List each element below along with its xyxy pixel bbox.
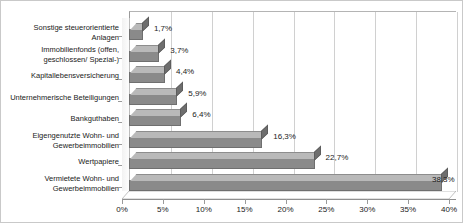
bar-row: 1,7% <box>122 22 449 42</box>
bar-row: 6,4% <box>122 108 449 128</box>
value-axis: 0%5%10%15%20%25%30%35%40% <box>122 191 462 221</box>
category-label-line: Gewerbeimmobilien <box>6 141 119 151</box>
value-tick <box>204 199 205 204</box>
category-label: Sonstige steuerorientierteAnlagen <box>6 23 119 43</box>
value-tick <box>408 199 409 204</box>
category-label-line: geschlossen/ Spezial-) <box>6 55 119 65</box>
value-tick-label: 25% <box>318 205 334 214</box>
category-label: Eigengenutzte Wohn- undGewerbeimmobilien <box>6 131 119 151</box>
category-label-line: Kapitallebensversicherung <box>6 71 119 81</box>
bar[interactable] <box>129 94 177 105</box>
gridline <box>457 12 458 192</box>
value-tick-label: 5% <box>157 205 169 214</box>
axis-line <box>122 199 456 200</box>
category-label: Unternehmerische Beteiligungen <box>6 93 119 103</box>
bar-row: 3,7% <box>122 44 449 64</box>
bar[interactable] <box>129 158 315 169</box>
category-label: Wertpapiere <box>6 157 119 167</box>
value-tick <box>326 199 327 204</box>
bar-value-label: 16,3% <box>273 132 296 141</box>
category-label-line: Vermietete Wohn- und <box>6 174 119 184</box>
bar-value-label: 22,7% <box>326 153 349 162</box>
category-axis: Sonstige steuerorientierteAnlagenImmobil… <box>1 18 119 198</box>
category-label: Immobilienfonds (offen,geschlossen/ Spez… <box>6 45 119 65</box>
category-label-line: Eigengenutzte Wohn- und <box>6 131 119 141</box>
value-tick <box>245 199 246 204</box>
bar-top-face <box>130 88 183 95</box>
bar-row: 16,3% <box>122 130 449 150</box>
value-tick-label: 30% <box>359 205 375 214</box>
bar[interactable] <box>129 180 442 191</box>
bar[interactable] <box>129 72 165 83</box>
bar-top-face <box>130 109 187 116</box>
bar[interactable] <box>129 137 262 148</box>
category-label-line: Unternehmerische Beteiligungen <box>6 93 119 103</box>
bar-value-label: 5,9% <box>188 89 206 98</box>
bar-value-label: 38,3% <box>432 175 455 184</box>
value-tick <box>122 199 123 204</box>
value-tick-label: 10% <box>196 205 212 214</box>
bar-top-face <box>130 174 448 181</box>
value-tick <box>449 199 450 204</box>
bar-value-label: 4,4% <box>176 67 194 76</box>
value-tick <box>163 199 164 204</box>
bar-end-cap <box>142 16 149 32</box>
category-label: Kapitallebensversicherung <box>6 71 119 81</box>
value-tick-label: 35% <box>400 205 416 214</box>
bar-value-label: 3,7% <box>170 46 188 55</box>
value-tick <box>367 199 368 204</box>
category-label-line: Bankguthaben <box>6 114 119 124</box>
bar-row: 4,4% <box>122 65 449 85</box>
bar-value-label: 6,4% <box>192 110 210 119</box>
bar-row: 22,7% <box>122 151 449 171</box>
bar-top-face <box>130 131 268 138</box>
value-tick-label: 15% <box>237 205 253 214</box>
value-tick-label: 40% <box>441 205 457 214</box>
category-label-line: Wertpapiere <box>6 157 119 167</box>
plot-area: 1,7%3,7%4,4%5,9%6,4%16,3%22,7%38,3% <box>122 18 456 198</box>
value-tick <box>286 199 287 204</box>
bar-value-label: 1,7% <box>154 24 172 33</box>
category-label-line: Anlagen <box>6 33 119 43</box>
bar-top-face <box>130 152 320 159</box>
value-tick-label: 0% <box>116 205 128 214</box>
category-label: Bankguthaben <box>6 114 119 124</box>
value-tick-label: 20% <box>277 205 293 214</box>
bar-row: 5,9% <box>122 87 449 107</box>
chart-frame: Sonstige steuerorientierteAnlagenImmobil… <box>0 0 463 223</box>
category-label-line: Immobilienfonds (offen, <box>6 45 119 55</box>
bar[interactable] <box>129 29 143 40</box>
bar[interactable] <box>129 115 181 126</box>
category-label: Vermietete Wohn- undGewerbeimmobilien <box>6 174 119 194</box>
bar-row: 38,3% <box>122 173 449 193</box>
bar[interactable] <box>129 51 159 62</box>
category-label-line: Sonstige steuerorientierte <box>6 23 119 33</box>
category-label-line: Gewerbeimmobilien <box>6 184 119 194</box>
